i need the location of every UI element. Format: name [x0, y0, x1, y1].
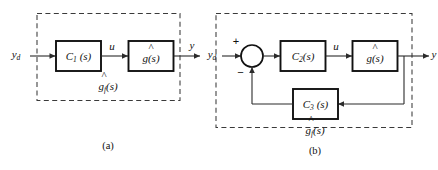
block-ghat-b-label: g(s)	[366, 51, 383, 64]
panel-a: C1 (s) u ^ g(s) yd y ^ gf(s) (a)	[0, 0, 208, 170]
summing-junction[interactable]	[241, 45, 263, 67]
signal-label-y-b: y	[431, 48, 437, 60]
block-ghat-a-label: g(s)	[142, 51, 159, 64]
arrowhead-into-ghat-a	[122, 53, 128, 59]
panel-b-canvas: + − C2(s) u ^ g(s)	[208, 0, 438, 170]
arrowhead-into-sum	[235, 53, 241, 59]
panel-b: + − C2(s) u ^ g(s)	[208, 0, 438, 170]
arrowhead-into-sum-negative	[249, 67, 255, 73]
signal-label-yd-a: yd	[11, 48, 21, 62]
sum-positive-sign: +	[233, 35, 239, 47]
arrowhead-into-c2	[274, 53, 280, 59]
signal-label-u-b: u	[333, 40, 339, 52]
arrowhead-into-ghat-b	[346, 53, 352, 59]
figure-root: C1 (s) u ^ g(s) yd y ^ gf(s) (a)	[0, 0, 438, 170]
signal-label-yd-b: yd	[207, 48, 217, 62]
enclosure-label-b: gf(s)	[305, 124, 325, 138]
sum-negative-sign: −	[237, 66, 243, 78]
signal-label-y-a: y	[189, 39, 195, 51]
arrowhead-output-b	[423, 53, 429, 59]
enclosure-label-a: gf(s)	[98, 80, 118, 94]
signal-label-u-a: u	[109, 40, 115, 52]
arrowhead-output-a	[194, 53, 200, 59]
caption-a: (a)	[102, 140, 114, 152]
panel-a-canvas: C1 (s) u ^ g(s) yd y ^ gf(s) (a)	[0, 0, 208, 170]
caption-b: (b)	[309, 145, 322, 157]
arrowhead-into-c1	[50, 53, 56, 59]
